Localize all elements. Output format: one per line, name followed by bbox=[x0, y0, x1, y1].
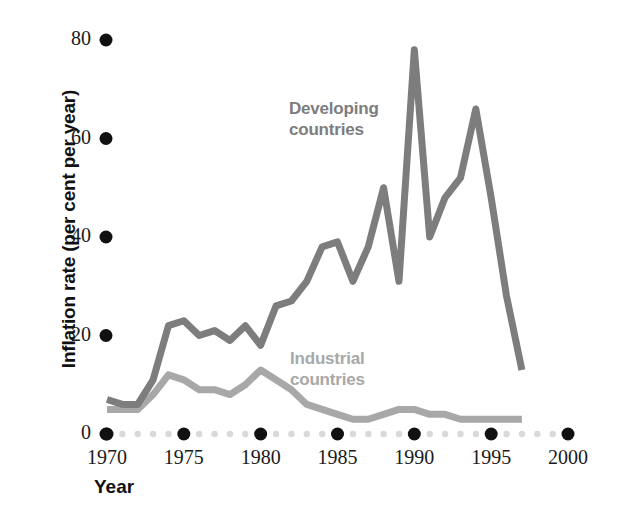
x-tick-dot bbox=[331, 428, 344, 441]
series-label-developing-line1: Developing bbox=[289, 98, 379, 119]
series-label-industrial: Industrial countries bbox=[290, 348, 365, 391]
series-label-industrial-line2: countries bbox=[290, 369, 365, 390]
y-tick-label: 60 bbox=[47, 126, 91, 149]
axis-minor-dot bbox=[503, 431, 509, 437]
axis-minor-dot bbox=[288, 431, 294, 437]
axis-minor-dot bbox=[442, 431, 448, 437]
x-axis-title: Year bbox=[94, 476, 134, 498]
axis-minor-dot bbox=[242, 431, 248, 437]
x-tick-dot bbox=[254, 428, 267, 441]
x-tick-label: 1990 bbox=[374, 446, 454, 469]
axis-minor-dot bbox=[519, 431, 525, 437]
axis-minor-dot bbox=[211, 431, 217, 437]
x-tick-label: 1995 bbox=[451, 446, 531, 469]
axis-minor-dot bbox=[304, 431, 310, 437]
x-tick-dot bbox=[101, 428, 114, 441]
x-tick-dot bbox=[177, 428, 190, 441]
y-tick-dot bbox=[100, 132, 113, 145]
series-label-developing-line2: countries bbox=[289, 119, 379, 140]
axis-minor-dot bbox=[165, 431, 171, 437]
chart-figure: Inflation rate (per cent per year) Year … bbox=[0, 0, 627, 512]
axis-minor-dot bbox=[550, 431, 556, 437]
x-tick-label: 1970 bbox=[67, 446, 147, 469]
x-tick-label: 2000 bbox=[528, 446, 608, 469]
axis-minor-dot bbox=[380, 431, 386, 437]
y-tick-label: 0 bbox=[47, 421, 91, 444]
x-tick-dot bbox=[408, 428, 421, 441]
y-axis-tick-dots bbox=[100, 34, 113, 441]
series-label-industrial-line1: Industrial bbox=[290, 348, 365, 369]
axis-minor-dot bbox=[273, 431, 279, 437]
axis-minor-dot bbox=[457, 431, 463, 437]
y-tick-dot bbox=[100, 231, 113, 244]
y-tick-label: 20 bbox=[47, 323, 91, 346]
x-tick-label: 1985 bbox=[298, 446, 378, 469]
axis-minor-dot bbox=[534, 431, 540, 437]
axis-minor-dot bbox=[135, 431, 141, 437]
x-tick-label: 1975 bbox=[144, 446, 224, 469]
axis-minor-dot bbox=[319, 431, 325, 437]
axis-minor-dot bbox=[119, 431, 125, 437]
axis-minor-dot bbox=[473, 431, 479, 437]
x-tick-label: 1980 bbox=[221, 446, 301, 469]
axis-minor-dot bbox=[150, 431, 156, 437]
axis-minor-dot bbox=[196, 431, 202, 437]
axis-minor-dot bbox=[227, 431, 233, 437]
axis-minor-dot bbox=[350, 431, 356, 437]
x-tick-dot bbox=[485, 428, 498, 441]
y-tick-label: 40 bbox=[47, 224, 91, 247]
axis-minor-dot bbox=[396, 431, 402, 437]
x-tick-dot bbox=[562, 428, 575, 441]
axis-minor-dot bbox=[365, 431, 371, 437]
chart-plot-area bbox=[0, 0, 627, 512]
axis-minor-dot bbox=[427, 431, 433, 437]
y-tick-dot bbox=[100, 329, 113, 342]
series-label-developing: Developing countries bbox=[289, 98, 379, 141]
y-tick-dot bbox=[100, 34, 113, 47]
y-tick-label: 80 bbox=[47, 27, 91, 50]
